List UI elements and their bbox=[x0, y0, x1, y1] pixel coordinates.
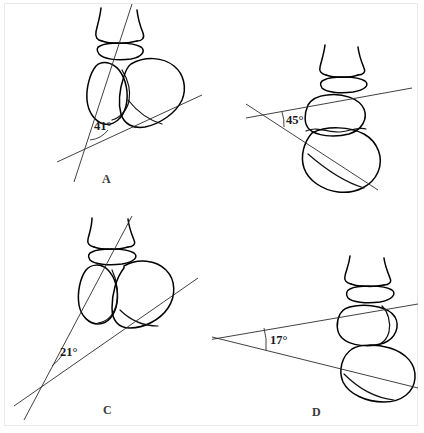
figure-container: 41° A 45° B bbox=[0, 0, 424, 433]
panel-letter-a: A bbox=[102, 172, 111, 187]
angle-label-c: 21° bbox=[60, 345, 78, 359]
talus-axis-line bbox=[74, 4, 132, 182]
tibia-outline bbox=[320, 45, 326, 75]
tibia-outline bbox=[96, 8, 102, 41]
calcaneus-outline bbox=[341, 345, 415, 402]
talar-lateral-process bbox=[380, 306, 390, 344]
angle-label-d: 17° bbox=[270, 333, 288, 347]
calcaneal-axis-line bbox=[14, 278, 198, 406]
calcaneal-axis-line bbox=[246, 104, 378, 190]
talus-axis-line bbox=[24, 216, 132, 420]
panel-b-drawing: 45° bbox=[212, 0, 424, 216]
talus-body-outline bbox=[305, 95, 365, 136]
talar-neck-outline bbox=[98, 270, 117, 323]
calcaneus-outline bbox=[302, 128, 380, 192]
fibula-outline bbox=[358, 47, 365, 75]
angle-label-a: 41° bbox=[94, 119, 112, 133]
panel-letter-d: D bbox=[312, 405, 321, 420]
talus-axis-line bbox=[246, 88, 412, 118]
calcaneus-outline bbox=[112, 261, 174, 328]
fibula-outline bbox=[137, 10, 144, 41]
panel-a: 41° A bbox=[0, 0, 212, 216]
calcaneus-inferior-ridge bbox=[120, 310, 158, 326]
panel-d-drawing: 17° bbox=[212, 208, 424, 424]
panel-letter-c: C bbox=[103, 403, 112, 418]
panel-c-drawing: 21° bbox=[0, 208, 212, 424]
talus-dome-outline bbox=[347, 286, 394, 303]
panel-b: 45° B bbox=[212, 0, 424, 216]
fibula-outline bbox=[128, 219, 135, 247]
angle-arc bbox=[264, 328, 266, 350]
panel-d: 17° D bbox=[212, 208, 424, 424]
calcaneus-inferior-ridge bbox=[344, 374, 394, 400]
fibula-outline bbox=[384, 258, 391, 285]
calcaneal-axis-line bbox=[212, 336, 418, 388]
talus-dome-outline bbox=[89, 249, 136, 265]
tibia-outline bbox=[345, 256, 351, 284]
calcaneus-inferior-ridge bbox=[128, 100, 162, 124]
panel-c: 21° C bbox=[0, 208, 212, 424]
talus-axis-line bbox=[212, 304, 418, 340]
tibia-outline bbox=[88, 218, 94, 247]
angle-label-b: 45° bbox=[286, 113, 304, 127]
talus-body-outline bbox=[337, 305, 397, 345]
talus-dome-outline bbox=[97, 43, 143, 60]
talus-dome-outline bbox=[321, 77, 367, 93]
angle-arc bbox=[282, 112, 284, 127]
calcaneal-axis-line bbox=[57, 95, 202, 162]
